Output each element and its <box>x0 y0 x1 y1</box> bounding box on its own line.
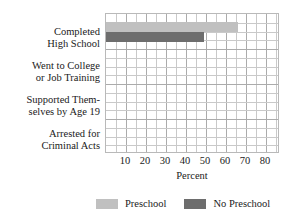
bar-no-preschool <box>106 32 204 42</box>
legend-label: No Preschool <box>213 198 270 210</box>
bar-preschool <box>106 22 238 32</box>
bar-chart-figure: Completed High School Went to College or… <box>0 0 291 219</box>
x-axis-label: Percent <box>105 170 279 182</box>
category-label-line-1: Arrested for <box>49 128 100 139</box>
category-label-arrested-criminal-acts: Arrested for Criminal Acts <box>0 128 100 151</box>
x-tick-label: 80 <box>253 155 277 167</box>
category-label-line-1: Went to College <box>32 60 100 71</box>
legend-label: Preschool <box>125 198 166 210</box>
legend-entry-preschool: Preschool <box>96 198 166 210</box>
category-axis-labels: Completed High School Went to College or… <box>0 12 103 152</box>
bar-series-container <box>106 14 278 152</box>
category-label-completed-high-school: Completed High School <box>0 26 100 49</box>
category-label-line-2: Criminal Acts <box>0 140 100 152</box>
legend-swatch-icon <box>184 199 206 209</box>
x-axis-tick-labels: 1020304050607080 <box>105 155 279 169</box>
chart-legend: Preschool No Preschool <box>96 196 288 212</box>
category-label-line-1: Completed <box>54 26 100 37</box>
category-label-line-2: High School <box>0 38 100 50</box>
category-label-line-1: Supported Them- <box>26 94 100 105</box>
category-label-line-2: or Job Training <box>0 72 100 84</box>
legend-entry-no-preschool: No Preschool <box>184 198 270 210</box>
plot-area <box>105 13 279 153</box>
legend-swatch-icon <box>96 199 118 209</box>
category-label-line-2: selves by Age 19 <box>0 106 100 118</box>
category-label-supported-themselves: Supported Them- selves by Age 19 <box>0 94 100 117</box>
category-label-went-to-college: Went to College or Job Training <box>0 60 100 83</box>
